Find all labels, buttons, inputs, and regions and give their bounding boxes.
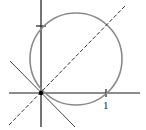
circle [30,13,122,105]
origin-dot [39,91,43,95]
diagram-canvas [0,0,146,130]
x-tick-label: 1 [103,100,109,111]
